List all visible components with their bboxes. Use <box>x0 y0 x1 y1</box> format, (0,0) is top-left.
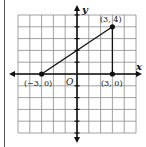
axes <box>9 5 142 143</box>
point-b <box>110 24 115 29</box>
point-a <box>39 71 44 76</box>
point-c <box>110 71 115 76</box>
coordinate-plane-figure: (−3, 0) (3, 4) (3, 0) O y x <box>0 0 146 147</box>
point-c-label: (3, 0) <box>101 79 123 88</box>
y-axis-label: y <box>81 4 89 15</box>
y-axis-up-arrow-icon <box>74 5 80 11</box>
x-axis-left-arrow-icon <box>9 71 15 77</box>
x-axis-label: x <box>135 61 143 72</box>
point-b-label: (3, 4) <box>100 15 122 24</box>
y-axis-down-arrow-icon <box>74 137 80 143</box>
origin-label: O <box>66 77 74 87</box>
point-a-label: (−3, 0) <box>24 79 52 88</box>
